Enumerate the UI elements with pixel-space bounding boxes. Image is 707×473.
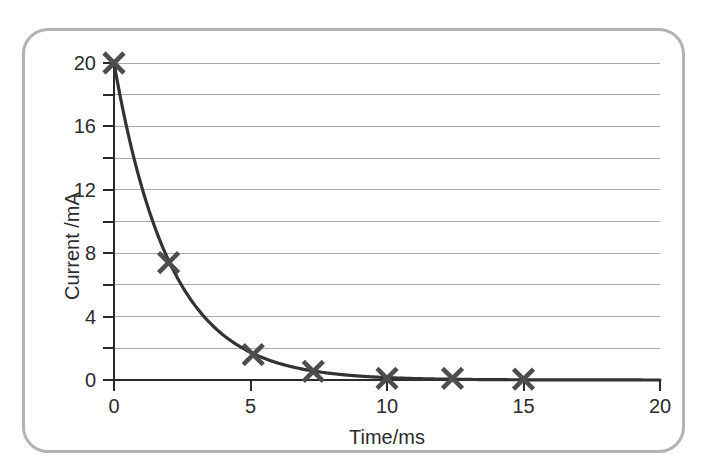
y-tick-label: 16 (74, 116, 96, 136)
x-tick-label: 10 (357, 396, 417, 416)
y-tick-label: 8 (85, 243, 96, 263)
y-axis-title: Current /mA (62, 192, 82, 300)
y-tick-label: 0 (85, 370, 96, 390)
x-axis-title: Time/ms (84, 427, 690, 447)
data-point-marker (159, 253, 179, 273)
y-tick-label: 20 (74, 53, 96, 73)
gridlines (114, 63, 660, 380)
x-tick-label: 5 (221, 396, 281, 416)
data-point-marker (243, 345, 263, 365)
x-tick-label: 0 (84, 396, 144, 416)
x-tick-label: 20 (630, 396, 690, 416)
axis-ticks (103, 63, 660, 391)
chart-plot-area: 04812162005101520 Time/ms Current /mA (0, 0, 707, 473)
x-tick-label: 15 (494, 396, 554, 416)
y-tick-label: 4 (85, 307, 96, 327)
